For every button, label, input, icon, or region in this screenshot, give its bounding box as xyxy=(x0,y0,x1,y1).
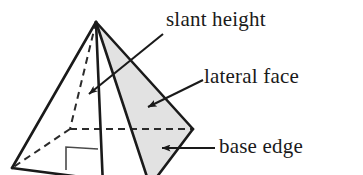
label-slant-height: slant height xyxy=(166,9,266,30)
pyramid-geometry-figure: slant height lateral face base edge xyxy=(0,0,363,175)
label-lateral-face: lateral face xyxy=(204,66,299,87)
lateral-face-shading xyxy=(96,22,193,175)
edge-left-to-front xyxy=(12,168,150,175)
edge-apex-to-left xyxy=(12,22,96,168)
right-angle-marker-icon xyxy=(66,147,98,170)
edge-altitude xyxy=(96,22,103,175)
label-base-edge: base edge xyxy=(219,136,303,157)
hidden-edge-back-to-left xyxy=(12,129,70,168)
hidden-edge-apex-to-back xyxy=(70,22,96,129)
